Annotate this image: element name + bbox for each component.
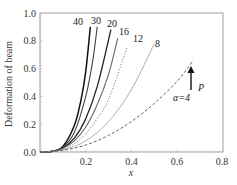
y-tick-label: 0.0 [24,147,37,158]
x-tick-label: 0.2 [80,156,93,167]
y-tick-label: 0.4 [24,91,37,102]
y-tick-label: 0.2 [24,119,37,130]
x-tick-labels: 0.2 0.4 0.6 0.8 [80,156,229,167]
curve-alpha-12 [40,48,127,152]
curve-label-40: 40 [73,16,83,27]
y-tick-label: 1.0 [24,8,37,19]
load-arrow-icon [188,66,195,90]
x-tick-label: 0.8 [216,156,229,167]
curve-alpha-20 [40,30,111,152]
curve-alpha-40 [40,27,90,152]
curve-alpha-4 [40,60,193,152]
curve-label-alpha-4: α=4 [173,92,190,103]
x-axis-title: x [128,167,134,178]
x-tick-label: 0.6 [171,156,184,167]
y-tick-label: 0.8 [24,35,37,46]
x-tick-label: 0.4 [125,156,138,167]
curves [40,27,193,152]
curve-label-16: 16 [119,26,129,37]
plot-frame [40,13,223,152]
curve-label-8: 8 [155,38,160,49]
load-label-P: P [197,82,204,93]
y-axis-title: Deformation of beam [3,41,14,127]
curve-alpha-8 [40,44,154,152]
curve-label-30: 30 [91,15,101,26]
y-minor-ticks [40,13,43,152]
y-tick-label: 0.6 [24,63,37,74]
deformation-chart: 0.0 0.2 0.4 0.6 0.8 1.0 0.2 0.4 0.6 0.8 … [0,0,237,185]
curve-label-20: 20 [107,18,117,29]
curve-alpha-16 [40,38,118,152]
curve-label-12: 12 [133,33,143,44]
y-tick-labels: 0.0 0.2 0.4 0.6 0.8 1.0 [24,8,37,158]
